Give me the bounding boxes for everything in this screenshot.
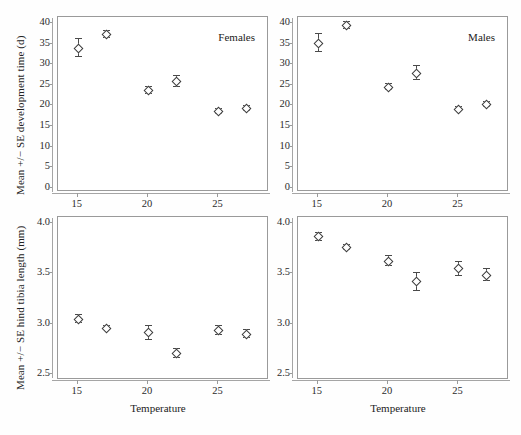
data-point xyxy=(452,261,466,275)
y-tick-label: 20 xyxy=(268,98,290,109)
error-bar-cap-lower xyxy=(413,290,420,291)
x-tick-label: 25 xyxy=(203,385,231,396)
x-tick-mark xyxy=(457,380,458,384)
x-axis-spine xyxy=(292,193,510,194)
y-tick-mark xyxy=(48,125,52,126)
data-marker xyxy=(411,68,421,78)
y-tick-label: 30 xyxy=(28,57,50,68)
data-point xyxy=(169,75,183,86)
data-marker xyxy=(143,328,153,338)
y-tick-mark xyxy=(288,84,292,85)
y-tick-label: 15 xyxy=(268,119,290,130)
panel-females-development-time: Mean +/− SE development time (d) 40 35 3… xyxy=(0,0,272,210)
y-tick-mark xyxy=(48,63,52,64)
x-tick-mark xyxy=(387,193,388,197)
x-axis-label-temperature: Temperature xyxy=(340,402,456,414)
y-tick-mark xyxy=(48,222,52,223)
y-tick-mark xyxy=(288,222,292,223)
y-tick-mark xyxy=(48,187,52,188)
y-tick-mark xyxy=(48,323,52,324)
data-marker xyxy=(313,38,323,48)
y-tick-mark xyxy=(288,166,292,167)
y-tick-label: 5 xyxy=(28,160,50,171)
x-tick-mark xyxy=(147,193,148,197)
y-tick-label: 10 xyxy=(28,140,50,151)
y-tick-mark xyxy=(48,146,52,147)
plot-area-females-development-time: Females xyxy=(57,16,268,191)
error-bar-cap-upper xyxy=(455,261,462,262)
plot-area-males-development-time: Males xyxy=(297,16,508,191)
data-point xyxy=(212,108,226,113)
x-tick-mark xyxy=(77,193,78,197)
y-tick-label: 15 xyxy=(28,119,50,130)
y-axis-label-development-time: Mean +/− SE development time (d) xyxy=(14,36,26,196)
y-tick-label: 0 xyxy=(268,181,290,192)
error-bar-cap-lower xyxy=(145,339,152,340)
x-tick-label: 25 xyxy=(203,198,231,209)
error-bar-cap-lower xyxy=(75,56,82,57)
error-bar-cap-upper xyxy=(75,38,82,39)
x-tick-label: 15 xyxy=(63,198,91,209)
error-bar-cap-lower xyxy=(413,79,420,80)
y-tick-mark xyxy=(48,43,52,44)
x-tick-mark xyxy=(77,380,78,384)
data-point xyxy=(240,329,254,337)
y-tick-label: 35 xyxy=(268,37,290,48)
panel-label-males: Males xyxy=(468,31,495,43)
y-tick-mark xyxy=(288,146,292,147)
panel-males-hind-tibia-length: 4.0 3.5 3.0 2.5 xyxy=(258,210,521,435)
data-point xyxy=(339,21,353,28)
y-tick-label: 20 xyxy=(28,98,50,109)
error-bar-cap-lower xyxy=(315,51,322,52)
y-tick-label: 2.5 xyxy=(22,367,50,378)
y-tick-label: 3.5 xyxy=(22,266,50,277)
y-tick-mark xyxy=(48,22,52,23)
x-tick-mark xyxy=(317,193,318,197)
x-axis-spine xyxy=(52,380,270,381)
data-marker xyxy=(73,43,83,53)
panel-label-females: Females xyxy=(218,31,255,43)
x-tick-label: 15 xyxy=(63,385,91,396)
y-tick-mark xyxy=(288,104,292,105)
data-point xyxy=(381,83,395,89)
y-axis-label-hind-tibia-length: Mean +/− SE hind tibia length (mm) xyxy=(14,226,26,390)
plot-area-males-hind-tibia-length xyxy=(297,216,508,379)
error-bar-cap-upper xyxy=(483,268,490,269)
x-tick-mark xyxy=(217,193,218,197)
y-tick-label: 3.0 xyxy=(262,317,290,328)
error-bar-cap-upper xyxy=(145,325,152,326)
x-tick-mark xyxy=(457,193,458,197)
data-point xyxy=(141,325,155,339)
y-tick-label: 25 xyxy=(28,78,50,89)
data-marker xyxy=(411,277,421,287)
data-point xyxy=(311,33,325,51)
error-bar-cap-lower xyxy=(455,275,462,276)
panel-females-hind-tibia-length: Mean +/− SE hind tibia length (mm) 4.0 3… xyxy=(0,210,272,435)
data-point xyxy=(99,30,113,36)
y-tick-label: 5 xyxy=(268,160,290,171)
plot-area-females-hind-tibia-length xyxy=(57,216,268,379)
x-tick-label: 25 xyxy=(443,385,471,396)
x-axis-label-temperature: Temperature xyxy=(100,402,216,414)
data-point xyxy=(339,244,353,250)
y-tick-label: 2.5 xyxy=(262,367,290,378)
y-tick-label: 40 xyxy=(268,16,290,27)
data-point xyxy=(99,325,113,329)
y-tick-label: 25 xyxy=(268,78,290,89)
y-axis-spine xyxy=(292,218,293,378)
x-tick-label: 20 xyxy=(373,385,401,396)
y-axis-spine xyxy=(52,18,53,192)
data-point xyxy=(240,105,254,110)
y-tick-label: 10 xyxy=(268,140,290,151)
error-bar-cap-upper xyxy=(413,65,420,66)
y-tick-mark xyxy=(288,272,292,273)
data-point xyxy=(409,65,423,79)
y-tick-label: 3.0 xyxy=(22,317,50,328)
error-bar-cap-upper xyxy=(413,272,420,273)
y-tick-mark xyxy=(288,323,292,324)
y-tick-mark xyxy=(288,43,292,44)
data-point xyxy=(71,38,85,56)
x-tick-mark xyxy=(217,380,218,384)
data-point xyxy=(311,232,325,240)
y-tick-mark xyxy=(48,84,52,85)
